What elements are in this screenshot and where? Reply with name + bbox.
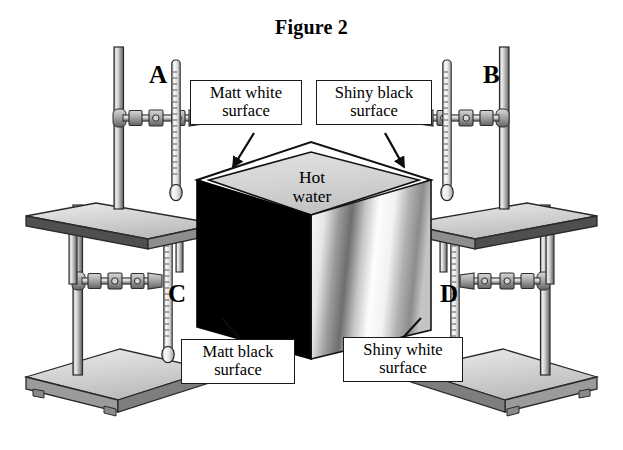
stand-label-B: B <box>483 62 500 87</box>
callout-matt-white: Matt white surface <box>190 80 302 125</box>
stand-B-group <box>405 47 597 284</box>
cube-contents-line1: Hot <box>264 168 360 187</box>
stand-label-C: C <box>168 281 186 306</box>
diagram-canvas <box>0 0 623 450</box>
stand-C-clamp <box>72 272 162 290</box>
callout-shiny-white-line2: surface <box>349 359 457 377</box>
callout-shiny-black-line1: Shiny black <box>322 84 426 102</box>
stand-A-thermometer <box>170 60 182 201</box>
callout-shiny-white-line1: Shiny white <box>349 341 457 359</box>
stand-label-D: D <box>440 281 458 306</box>
callout-shiny-black-line2: surface <box>322 102 426 120</box>
callout-shiny-white: Shiny white surface <box>343 337 463 382</box>
callout-matt-white-line2: surface <box>196 102 296 120</box>
callout-matt-black: Matt black surface <box>181 339 295 384</box>
arrow-shiny-black <box>385 133 404 167</box>
callout-matt-black-line1: Matt black <box>187 343 289 361</box>
platform-A-slab <box>26 203 218 249</box>
callout-shiny-black: Shiny black surface <box>316 80 432 125</box>
platform-B-slab <box>405 203 597 249</box>
stand-D-clamp <box>460 272 550 290</box>
cube-contents-label: Hot water <box>264 168 360 206</box>
stand-B-clamp <box>419 109 509 127</box>
stand-B-thermometer <box>441 60 453 201</box>
stand-A-rod <box>114 47 124 209</box>
callout-matt-black-line2: surface <box>187 361 289 379</box>
stand-B-rod <box>500 47 510 209</box>
cube-contents-line2: water <box>264 187 360 206</box>
stand-label-A: A <box>149 62 167 87</box>
figure-container: Figure 2 <box>0 0 623 450</box>
callout-matt-white-line1: Matt white <box>196 84 296 102</box>
